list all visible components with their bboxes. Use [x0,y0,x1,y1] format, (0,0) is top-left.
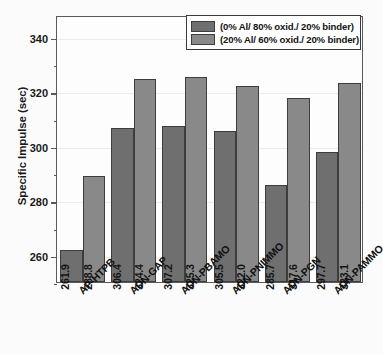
y-tick-label: 260 [30,251,48,263]
bar[interactable]: 306.4 [111,128,134,282]
y-tick-label: 320 [30,87,48,99]
y-tick-label: 280 [30,196,48,208]
bar[interactable]: 285.7 [265,185,288,282]
bar-value-label: 297.7 [315,264,327,289]
y-tick-label: 340 [30,33,48,45]
legend-label: (0% Al/ 80% oxid./ 20% binder) [220,21,354,32]
plot-area: 260280300320340 261.9288.8306.4324.4307.… [56,16,363,283]
y-tick-minor [54,284,58,285]
bar[interactable]: 323.1 [338,83,361,282]
bar[interactable]: 261.9 [60,250,83,282]
bar[interactable]: 322.0 [236,86,259,282]
bar[interactable]: 324.4 [134,79,157,282]
bar[interactable]: 325.3 [185,77,208,282]
legend-swatch-icon [191,34,215,45]
legend-item-0[interactable]: (0% Al/ 80% oxid./ 20% binder) [191,20,356,32]
chart-container: Specific Impulse (sec) 260280300320340 2… [0,0,383,355]
legend-item-1[interactable]: (20% Al/ 60% oxid./ 20% binder) [191,33,356,45]
y-tick-label: 300 [30,142,48,154]
y-axis-title: Specific Impulse (sec) [16,61,28,231]
bar[interactable]: 317.6 [287,98,310,282]
legend-swatch-icon [191,21,215,32]
bar-value-label: 261.9 [59,264,71,289]
bars-layer: 261.9288.8306.4324.4307.2325.3305.5322.0… [57,17,362,282]
legend: (0% Al/ 80% oxid./ 20% binder) (20% Al/ … [186,15,361,50]
legend-label: (20% Al/ 60% oxid./ 20% binder) [220,34,359,45]
